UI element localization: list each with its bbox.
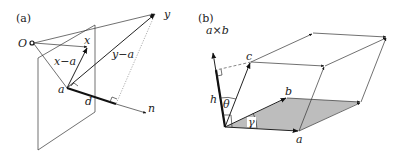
n-label: n xyxy=(148,102,155,115)
y-minus-a-label: y−a xyxy=(111,48,134,61)
panel-a-label: (a) xyxy=(16,12,31,25)
a-cross-b-label: a×b xyxy=(206,24,229,37)
panel-b: (b) γ a×b c b a xyxy=(198,12,386,146)
a-label-b: a xyxy=(296,133,303,146)
x-minus-a-label: x−a xyxy=(54,55,76,68)
d-label: d xyxy=(85,95,92,108)
edge-c-to-ac xyxy=(251,62,324,66)
gamma-label: γ xyxy=(248,116,255,129)
vector-n xyxy=(116,104,146,113)
b-label: b xyxy=(285,85,292,98)
vector-y-minus-a xyxy=(67,14,155,88)
vector-o-to-y xyxy=(34,14,154,43)
vector-x-minus-a xyxy=(67,48,87,88)
origin-label: O xyxy=(18,37,27,50)
h-label: h xyxy=(210,93,217,106)
base-parallelogram xyxy=(225,98,361,131)
vector-o-to-x xyxy=(34,43,87,47)
origin-point xyxy=(30,41,34,45)
figure-canvas: (a) O x y x−a y−a a d n (b) xyxy=(0,0,408,160)
theta-label: θ xyxy=(223,98,230,111)
panel-a: (a) O x y x−a y−a a d n xyxy=(16,8,171,150)
edge-c-to-bc xyxy=(251,34,312,62)
y-label: y xyxy=(163,8,171,21)
edge-bc-to-abc xyxy=(313,33,386,37)
x-label: x xyxy=(84,34,91,47)
projection-c-to-axb xyxy=(216,62,251,70)
c-label: c xyxy=(246,50,252,63)
a-label: a xyxy=(58,83,65,96)
